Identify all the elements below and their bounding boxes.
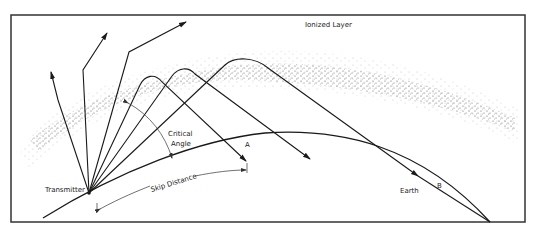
point-b-label: B [437, 183, 442, 190]
ionized-layer-label: Ionized Layer [305, 22, 352, 29]
earth-surface [43, 132, 490, 222]
critical-angle-label-2: Angle [171, 141, 191, 148]
earth-label: Earth [400, 188, 419, 195]
ionosphere-diagram [0, 0, 533, 241]
transmitter-point [87, 191, 91, 195]
critical-angle-label-1: Critical [168, 131, 192, 138]
transmitter-label: Transmitter [45, 187, 85, 194]
point-a-label: A [245, 142, 250, 149]
